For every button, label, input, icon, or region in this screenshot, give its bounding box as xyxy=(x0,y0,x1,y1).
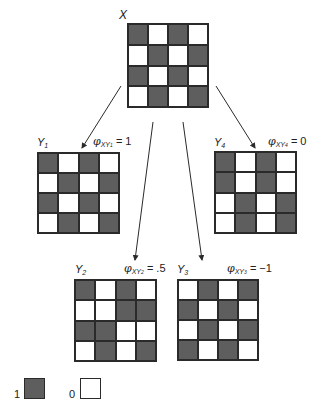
grid-cell xyxy=(215,193,235,213)
grid-cell xyxy=(136,300,156,320)
grid-cell xyxy=(218,340,238,360)
grid-cell xyxy=(276,213,296,233)
grid-cell xyxy=(79,153,99,173)
grid-cell xyxy=(198,320,218,340)
grid-cell xyxy=(38,173,58,193)
grid-cell xyxy=(79,193,99,213)
grid-cell xyxy=(198,340,218,360)
grid-cell xyxy=(276,172,296,192)
grid-cell xyxy=(215,213,235,233)
grid-cell xyxy=(136,321,156,341)
grid-cell xyxy=(38,193,58,213)
y3-label: Y3 xyxy=(177,264,188,276)
grid-cell xyxy=(79,213,99,233)
grid-cell xyxy=(178,340,198,360)
grid-cell xyxy=(235,172,255,192)
grid-cell xyxy=(238,320,258,340)
grid-cell xyxy=(116,280,136,300)
grid-cell xyxy=(75,341,95,361)
y3-grid xyxy=(177,279,259,361)
legend-value-1: 1 xyxy=(14,388,20,400)
grid-cell xyxy=(276,193,296,213)
grid-cell xyxy=(95,300,115,320)
grid-cell xyxy=(136,280,156,300)
y2-phi-label: φXY2 = .5 xyxy=(124,263,166,275)
grid-cell xyxy=(198,300,218,320)
grid-cell xyxy=(75,321,95,341)
grid-cell xyxy=(256,213,276,233)
arrow-to-y2 xyxy=(135,122,153,260)
grid-cell xyxy=(99,213,119,233)
grid-cell xyxy=(256,193,276,213)
legend-empty-swatch xyxy=(80,378,101,399)
grid-cell xyxy=(116,321,136,341)
grid-cell xyxy=(58,213,78,233)
grid-cell xyxy=(215,172,235,192)
grid-cell xyxy=(256,152,276,172)
arrow-to-y3 xyxy=(183,122,202,260)
grid-cell xyxy=(238,340,258,360)
grid-cell xyxy=(38,153,58,173)
grid-cell xyxy=(58,193,78,213)
grid-cell xyxy=(256,172,276,192)
grid-cell xyxy=(58,173,78,193)
grid-cell xyxy=(136,341,156,361)
grid-cell xyxy=(116,300,136,320)
grid-cell xyxy=(38,213,58,233)
grid-cell xyxy=(178,280,198,300)
y4-grid xyxy=(214,151,297,234)
legend-filled-swatch xyxy=(24,378,45,399)
grid-cell xyxy=(75,300,95,320)
grid-cell xyxy=(235,193,255,213)
grid-cell xyxy=(198,280,218,300)
grid-cell xyxy=(95,341,115,361)
grid-cell xyxy=(116,341,136,361)
grid-cell xyxy=(178,300,198,320)
grid-cell xyxy=(276,152,296,172)
grid-cell xyxy=(235,213,255,233)
grid-cell xyxy=(75,280,95,300)
legend-value-0: 0 xyxy=(69,388,75,400)
y2-grid xyxy=(74,279,157,362)
y3-phi-label: φXY3 = −1 xyxy=(227,263,272,275)
grid-cell xyxy=(99,173,119,193)
grid-cell xyxy=(218,300,238,320)
grid-cell xyxy=(215,152,235,172)
grid-cell xyxy=(218,320,238,340)
y1-phi-label: φXY1 = 1 xyxy=(93,136,131,148)
y4-phi-label: φXY4 = 0 xyxy=(268,136,306,148)
grid-cell xyxy=(95,280,115,300)
grid-cell xyxy=(99,193,119,213)
grid-cell xyxy=(95,321,115,341)
grid-cell xyxy=(58,153,78,173)
y4-label: Y4 xyxy=(214,137,225,149)
grid-cell xyxy=(178,320,198,340)
grid-cell xyxy=(79,173,99,193)
grid-cell xyxy=(238,300,258,320)
grid-cell xyxy=(99,153,119,173)
y1-label: Y1 xyxy=(37,137,48,149)
y1-grid xyxy=(37,152,120,234)
grid-cell xyxy=(218,280,238,300)
y2-label: Y2 xyxy=(75,264,86,276)
grid-cell xyxy=(235,152,255,172)
grid-cell xyxy=(238,280,258,300)
